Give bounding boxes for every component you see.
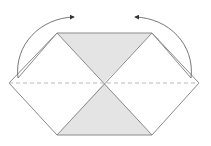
origami-diagram — [0, 0, 211, 146]
top-shaded-triangle — [57, 33, 152, 83]
left-flap-edge — [18, 33, 57, 78]
bottom-shaded-triangle — [57, 83, 152, 135]
right-flap-edge — [152, 33, 191, 78]
